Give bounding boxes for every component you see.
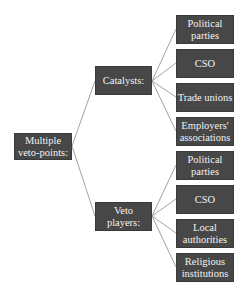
leaf-node-veto-local-authorities: Local authorities <box>176 219 234 248</box>
connector-root-catalysts <box>72 81 95 146</box>
leaf-node-veto-political-parties: Political parties <box>176 151 234 180</box>
root-node-multiple-veto-points: Multiple veto-points: <box>14 133 72 160</box>
connector-root-veto-players <box>72 146 95 216</box>
leaf-node-veto-cso: CSO <box>176 185 234 214</box>
branch-node-veto-players: Veto players: <box>95 202 152 231</box>
leaf-node-catalysts-cso: CSO <box>176 49 234 78</box>
leaf-node-catalysts-employers-associations: Employers' associations <box>176 117 234 146</box>
leaf-node-veto-religious-institutions: Religious institutions <box>176 253 234 282</box>
branch-node-catalysts: Catalysts: <box>95 66 152 95</box>
leaf-node-catalysts-trade-unions: Trade unions <box>176 83 234 112</box>
leaf-node-catalysts-political-parties: Political parties <box>176 15 234 44</box>
